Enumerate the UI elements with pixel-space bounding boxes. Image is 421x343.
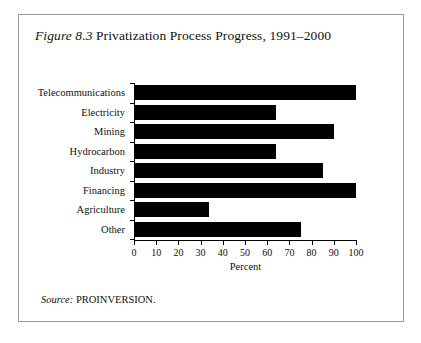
bar-row xyxy=(134,220,356,240)
x-axis-tick-label: 70 xyxy=(284,246,294,259)
x-axis-tick xyxy=(356,241,357,245)
x-axis-tick xyxy=(289,241,290,245)
x-axis-tick xyxy=(156,241,157,245)
source-value: PROINVERSION. xyxy=(76,294,156,305)
category-label: Industry xyxy=(19,161,130,181)
bar-row xyxy=(134,142,356,162)
bar-row xyxy=(134,103,356,123)
x-axis-tick-label: 20 xyxy=(173,246,183,259)
bar-row xyxy=(134,83,356,103)
bar-row xyxy=(134,122,356,142)
bar xyxy=(134,124,334,139)
x-axis-tick-label: 100 xyxy=(349,246,364,259)
bar-row xyxy=(134,161,356,181)
y-axis-category-labels: TelecommunicationsElectricityMiningHydro… xyxy=(19,83,130,239)
x-axis-tick-label: 80 xyxy=(307,246,317,259)
x-axis-title: Percent xyxy=(134,261,357,272)
x-axis-tick xyxy=(178,241,179,245)
bar xyxy=(134,163,323,178)
category-label: Telecommunications xyxy=(19,83,130,103)
x-axis-tick xyxy=(267,241,268,245)
x-axis-tick-label: 60 xyxy=(262,246,272,259)
category-label: Mining xyxy=(19,122,130,142)
x-axis-tick-label: 30 xyxy=(196,246,206,259)
source-label: Source: xyxy=(41,294,73,305)
bar-row xyxy=(134,200,356,220)
figure-number: 8.3 xyxy=(75,28,92,43)
x-axis-tick xyxy=(134,241,135,245)
x-axis-tick xyxy=(201,241,202,245)
bar xyxy=(134,85,356,100)
x-axis-tick-label: 50 xyxy=(240,246,250,259)
bar xyxy=(134,222,301,237)
source-note: Source: PROINVERSION. xyxy=(41,294,156,305)
x-axis-tick-labels: 0102030405060708090100 xyxy=(134,246,357,260)
category-label: Hydrocarbon xyxy=(19,142,130,162)
x-axis-tick-label: 10 xyxy=(151,246,161,259)
bar xyxy=(134,183,356,198)
category-label: Electricity xyxy=(19,103,130,123)
x-axis-tick-label: 40 xyxy=(218,246,228,259)
bar xyxy=(134,105,276,120)
bar xyxy=(134,144,276,159)
figure-label-word: Figure xyxy=(35,28,72,43)
x-axis-tick xyxy=(223,241,224,245)
x-axis-tick xyxy=(312,241,313,245)
figure-frame: Figure 8.3 Privatization Process Progres… xyxy=(18,14,404,322)
bar xyxy=(134,202,209,217)
bar-row xyxy=(134,181,356,201)
x-axis-tick xyxy=(245,241,246,245)
category-label: Agriculture xyxy=(19,200,130,220)
x-axis-tick-label: 90 xyxy=(329,246,339,259)
x-axis-tick xyxy=(334,241,335,245)
figure-title-text: Privatization Process Progress, 1991–200… xyxy=(96,28,331,43)
figure-title: Figure 8.3 Privatization Process Progres… xyxy=(35,27,331,44)
category-label: Financing xyxy=(19,181,130,201)
chart-plot-area xyxy=(134,83,356,239)
category-label: Other xyxy=(19,220,130,240)
x-axis-tick-label: 0 xyxy=(132,246,137,259)
